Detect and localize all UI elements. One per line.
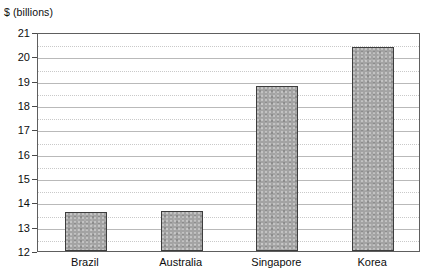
y-axis-tick-mark	[32, 33, 37, 34]
y-axis-tick-mark	[32, 252, 37, 253]
x-axis-tick-label: Singapore	[251, 256, 301, 269]
x-axis-tick-label: Australia	[159, 256, 202, 269]
x-axis-label-group: BrazilAustraliaSingaporeKorea	[37, 256, 420, 274]
y-axis-tick-label: 18	[0, 101, 30, 112]
bar	[352, 47, 394, 251]
plot-area	[37, 33, 420, 252]
y-axis-tick-mark	[32, 82, 37, 83]
y-axis-tick-label: 16	[0, 149, 30, 160]
y-axis-tick-label: 14	[0, 198, 30, 209]
y-axis-tick-mark	[32, 106, 37, 107]
bar	[161, 211, 203, 251]
y-axis-tick-label: 21	[0, 28, 30, 39]
y-axis-tick-mark	[32, 228, 37, 229]
y-axis-tick-mark	[32, 57, 37, 58]
y-axis-tick-mark	[32, 179, 37, 180]
y-axis-tick-mark	[32, 130, 37, 131]
bar	[65, 212, 107, 251]
bar	[256, 86, 298, 251]
y-axis-tick-label: 17	[0, 125, 30, 136]
y-axis-tick-label: 19	[0, 76, 30, 87]
y-axis-tick-label: 15	[0, 174, 30, 185]
y-axis-tick-label: 13	[0, 222, 30, 233]
y-axis-tick-label: 12	[0, 247, 30, 258]
bar-chart: $ (billions) 12131415161718192021 Brazil…	[0, 0, 437, 280]
x-axis-tick-label: Korea	[357, 256, 386, 269]
y-axis-tick-mark	[32, 155, 37, 156]
y-axis-tick-mark	[32, 203, 37, 204]
y-axis-label-group: 12131415161718192021	[0, 0, 30, 280]
x-axis-tick-label: Brazil	[71, 256, 99, 269]
y-axis-tick-label: 20	[0, 52, 30, 63]
